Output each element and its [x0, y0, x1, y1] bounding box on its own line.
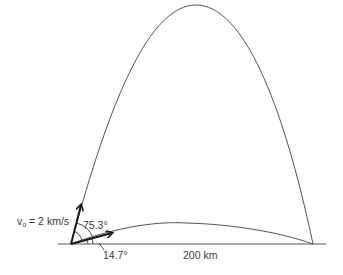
high-velocity-arrow [71, 205, 81, 244]
high-angle-label: 75.3° [83, 220, 108, 231]
velocity-value: = 2 km/s [26, 215, 69, 227]
high-angle-arc [74, 231, 82, 241]
low-angle-label: 14.7° [103, 250, 128, 261]
high-trajectory [71, 5, 313, 244]
low-angle-arc [87, 240, 88, 244]
range-label: 200 km [183, 250, 217, 261]
launch-velocity-label: vo = 2 km/s [17, 216, 69, 228]
trajectory-diagram [0, 0, 343, 275]
